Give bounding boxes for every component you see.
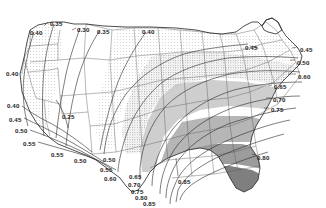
contour-value-label: 0.40	[30, 30, 42, 36]
contour-value-label: 0.70	[273, 97, 285, 103]
contour-value-label: 0.40	[142, 29, 154, 35]
contour-value-label: 0.35	[97, 29, 109, 35]
contour-value-label: 0.45	[245, 45, 257, 51]
contour-value-label: 0.45	[9, 117, 21, 123]
contour-value-label: 0.55	[100, 167, 112, 173]
contour-value-label: 0.85	[178, 179, 190, 185]
contour-value-label: 0.65	[274, 84, 286, 90]
contour-value-label: 0.45	[300, 47, 312, 53]
contour-value-label: 0.85	[143, 201, 155, 207]
contour-value-label: 0.65	[129, 174, 141, 180]
contour-value-label: 0.25	[62, 114, 74, 120]
contour-value-label: 0.40	[7, 103, 19, 109]
contour-value-label: 0.55	[51, 152, 63, 158]
contour-value-label: 0.60	[298, 74, 310, 80]
contour-value-label: 0.50	[74, 158, 86, 164]
contour-value-label: 0.50	[15, 128, 27, 134]
vapor-pressure-map-figure: AVERAGE VAPOR PRESSURE IN INCHES JULY	[0, 0, 326, 208]
contour-value-label: 0.30	[77, 27, 89, 33]
contour-value-label: 0.40	[6, 71, 18, 77]
contour-value-label: 0.55	[23, 141, 35, 147]
us-contour-map	[0, 0, 326, 208]
contour-value-label: 0.35	[50, 21, 62, 27]
contour-value-label: 0.80	[257, 155, 269, 161]
contour-value-label: 0.50	[297, 60, 309, 66]
map-shading-bands	[0, 0, 326, 208]
contour-value-label: 0.60	[104, 176, 116, 182]
contour-value-label: 0.50	[103, 157, 115, 163]
contour-value-label: 0.75	[271, 107, 283, 113]
